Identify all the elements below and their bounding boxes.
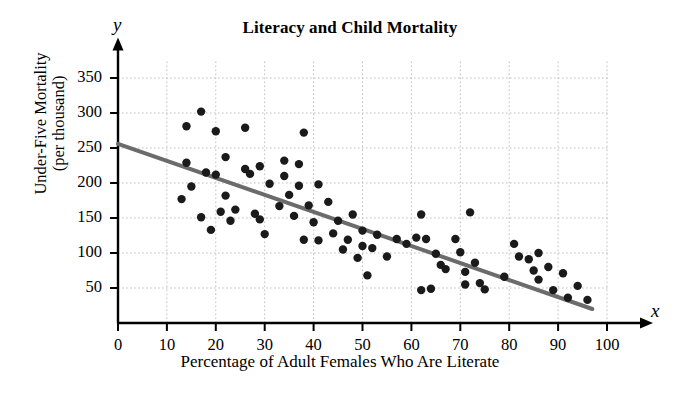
y-tick-label: 300 (62, 102, 102, 122)
data-point (280, 156, 288, 164)
data-point (402, 240, 410, 248)
data-point (368, 244, 376, 252)
y-tick-label: 100 (62, 242, 102, 262)
data-point (534, 249, 542, 257)
data-point (280, 172, 288, 180)
y-axis-label-line2: (per thousand) (50, 18, 68, 228)
data-point (177, 195, 185, 203)
data-point (295, 160, 303, 168)
data-point (427, 285, 435, 293)
y-tick-label: 150 (62, 207, 102, 227)
data-point (373, 231, 381, 239)
data-point (451, 235, 459, 243)
data-point (265, 180, 273, 188)
data-point (256, 162, 264, 170)
data-point (187, 182, 195, 190)
x-tick-label: 20 (196, 335, 236, 355)
data-point (197, 213, 205, 221)
data-point (461, 268, 469, 276)
x-tick-label: 80 (489, 335, 529, 355)
regression-trendline (118, 144, 592, 309)
data-point (226, 217, 234, 225)
data-point (417, 286, 425, 294)
data-point (353, 254, 361, 262)
y-axis-variable-symbol: y (113, 14, 121, 36)
data-point (422, 235, 430, 243)
data-point (573, 282, 581, 290)
data-point (500, 273, 508, 281)
data-point (344, 236, 352, 244)
data-point (329, 229, 337, 237)
y-tick-label: 200 (62, 172, 102, 192)
data-point (216, 208, 224, 216)
x-tick-label: 0 (98, 335, 138, 355)
data-point (182, 159, 190, 167)
data-point (456, 248, 464, 256)
data-point (534, 275, 542, 283)
x-axis-label: Percentage of Adult Females Who Are Lite… (60, 352, 620, 372)
data-point (559, 269, 567, 277)
data-point (417, 210, 425, 218)
data-point (207, 226, 215, 234)
data-point (432, 250, 440, 258)
data-point (461, 280, 469, 288)
data-point (231, 205, 239, 213)
data-point (334, 217, 342, 225)
data-point (290, 212, 298, 220)
data-points (177, 107, 591, 304)
data-point (529, 266, 537, 274)
data-point (314, 180, 322, 188)
data-point (349, 210, 357, 218)
x-tick-label: 30 (245, 335, 285, 355)
data-point (241, 124, 249, 132)
data-point (261, 230, 269, 238)
data-point (212, 127, 220, 135)
data-point (314, 236, 322, 244)
data-point (481, 285, 489, 293)
y-tick-label: 250 (62, 137, 102, 157)
chart-figure: Literacy and Child Mortality y x Under-F… (0, 0, 682, 393)
data-point (256, 215, 264, 223)
data-point (221, 153, 229, 161)
data-point (510, 240, 518, 248)
x-tick-label: 50 (343, 335, 383, 355)
data-point (544, 263, 552, 271)
data-point (212, 170, 220, 178)
data-point (182, 122, 190, 130)
axis-ticks (110, 78, 607, 331)
data-point (324, 198, 332, 206)
data-point (549, 286, 557, 294)
data-point (358, 242, 366, 250)
x-tick-label: 10 (147, 335, 187, 355)
data-point (471, 259, 479, 267)
x-tick-label: 70 (440, 335, 480, 355)
gridlines (118, 62, 609, 324)
data-point (564, 294, 572, 302)
y-tick-label: 350 (62, 67, 102, 87)
y-tick-label: 50 (62, 277, 102, 297)
x-axis-variable-symbol: x (651, 300, 659, 322)
data-point (285, 191, 293, 199)
data-point (358, 226, 366, 234)
x-tick-label: 100 (587, 335, 627, 355)
data-point (583, 296, 591, 304)
data-point (197, 107, 205, 115)
y-axis-arrowhead (113, 38, 124, 51)
data-point (466, 208, 474, 216)
x-tick-label: 90 (538, 335, 578, 355)
data-point (441, 265, 449, 273)
data-point (221, 191, 229, 199)
data-point (300, 128, 308, 136)
data-point (275, 202, 283, 210)
data-point (305, 201, 313, 209)
data-point (300, 236, 308, 244)
x-tick-label: 40 (294, 335, 334, 355)
data-point (363, 271, 371, 279)
data-point (309, 218, 317, 226)
data-point (412, 233, 420, 241)
chart-title: Literacy and Child Mortality (180, 18, 520, 38)
data-point (393, 235, 401, 243)
trendline (118, 144, 592, 309)
data-point (246, 170, 254, 178)
data-point (339, 245, 347, 253)
